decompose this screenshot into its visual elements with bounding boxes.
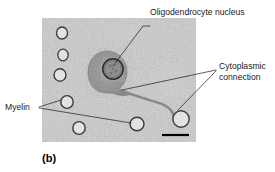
micrograph-image bbox=[41, 18, 196, 142]
myelin-ring bbox=[58, 49, 68, 61]
label-myelin: Myelin bbox=[5, 102, 30, 112]
myelin-ring bbox=[73, 122, 85, 135]
panel-caption: (b) bbox=[42, 152, 56, 164]
myelin-ring bbox=[57, 27, 68, 39]
myelin-ring bbox=[54, 69, 66, 81]
myelin-ring bbox=[61, 96, 73, 109]
figure-panel-b: Oligodendrocyte nucleus Cytoplasmic conn… bbox=[0, 0, 275, 172]
myelin-ring bbox=[173, 111, 189, 127]
label-cytoplasmic-connection-line1: Cytoplasmic bbox=[219, 61, 267, 71]
label-oligodendrocyte-nucleus: Oligodendrocyte nucleus bbox=[150, 7, 245, 17]
micrograph-figure-canvas: Oligodendrocyte nucleus Cytoplasmic conn… bbox=[0, 0, 275, 172]
oligodendrocyte-nucleus-structure bbox=[102, 58, 123, 79]
myelin-ring bbox=[130, 117, 144, 131]
label-cytoplasmic-connection-line2: connection bbox=[219, 72, 261, 82]
